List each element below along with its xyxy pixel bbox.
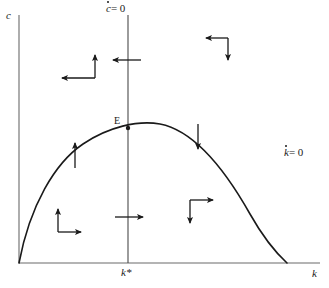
- cdot-equation-rest: = 0: [111, 2, 125, 14]
- x-axis-label: k: [312, 268, 317, 279]
- arrow-pair-upper-right: [206, 38, 228, 60]
- phase-diagram-figure: c k k* E c= 0 k= 0: [0, 0, 329, 288]
- arrow-pair-lower-left: [58, 209, 81, 232]
- kdot-variable: k: [284, 147, 289, 158]
- arrow-pair-lower-right: [190, 200, 213, 223]
- kdot-equation-rest: = 0: [289, 146, 303, 158]
- phase-diagram-canvas: [0, 0, 329, 288]
- cdot-zero-label: c= 0: [106, 3, 125, 14]
- arrow-pair-upper-left: [62, 55, 95, 78]
- x-axis-tick-label: k*: [121, 267, 131, 278]
- steady-state-label: E: [114, 116, 120, 126]
- steady-state-point: [126, 126, 130, 130]
- y-axis-label: c: [6, 10, 11, 21]
- kdot-zero-locus: [19, 123, 287, 263]
- cdot-variable: c: [106, 3, 111, 14]
- kdot-zero-label: k= 0: [284, 147, 303, 158]
